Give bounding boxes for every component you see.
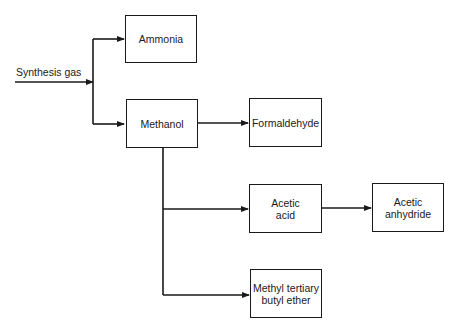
- node-acetic-anhydride-label: Acetic anhydride: [385, 196, 431, 220]
- node-formaldehyde: Formaldehyde: [249, 98, 322, 147]
- synthesis-gas-label: Synthesis gas: [16, 66, 81, 78]
- node-acetic-acid-label: Acetic acid: [271, 197, 300, 221]
- node-ammonia: Ammonia: [125, 15, 197, 63]
- node-mtbe-label: Methyl tertiary butyl ether: [253, 282, 319, 306]
- node-formaldehyde-label: Formaldehyde: [252, 117, 319, 129]
- connector-lines: [0, 0, 457, 333]
- node-acetic-anhydride: Acetic anhydride: [372, 183, 444, 232]
- node-ammonia-label: Ammonia: [139, 33, 183, 45]
- node-mtbe: Methyl tertiary butyl ether: [250, 269, 322, 318]
- node-methanol: Methanol: [126, 99, 198, 148]
- node-methanol-label: Methanol: [140, 118, 183, 130]
- node-acetic-acid: Acetic acid: [249, 184, 322, 233]
